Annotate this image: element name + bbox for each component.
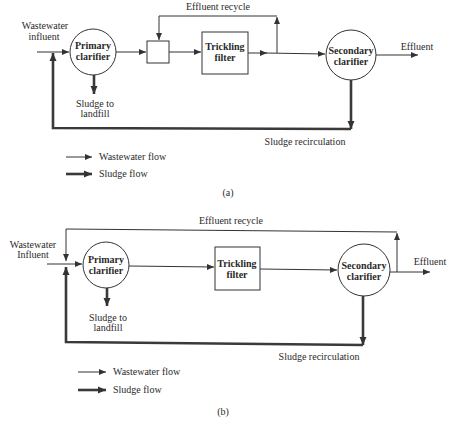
recycle-mixing-box [147,41,169,63]
trickling-filter-label-line2: filter [226,269,248,280]
panel-a: Wastewater influent Primary clarifier Tr… [22,1,434,199]
secondary-clarifier: Secondary clarifier [338,244,390,296]
legend-wastewater-flow-label: Wastewater flow [99,151,167,162]
caption-a: (a) [222,187,233,199]
influent-label-line2: influent [28,31,59,42]
effluent-recycle-label: Effluent recycle [186,1,251,12]
primary-clarifier: Primary clarifier [83,242,129,288]
effluent-recycle-label: Effluent recycle [199,215,264,226]
diagram-canvas: Wastewater influent Primary clarifier Tr… [0,0,457,430]
effluent-label: Effluent [414,256,447,267]
sludge-to-landfill-label-line2: landfill [81,108,110,119]
legend-sludge-flow-label: Sludge flow [113,384,162,395]
primary-clarifier-label-line2: clarifier [76,51,111,62]
legend-a: Wastewater flow Sludge flow [66,151,167,179]
trickling-filter-label-line2: filter [214,52,236,63]
sludge-to-landfill-label-line2: landfill [94,322,123,333]
influent-label-line2: Influent [17,249,49,260]
primary-clarifier-label-line2: clarifier [89,265,124,276]
trickling-filter: Trickling filter [215,247,260,290]
trickling-filter-process-diagrams: Wastewater influent Primary clarifier Tr… [0,0,457,430]
effluent-label: Effluent [401,41,434,52]
trickling-filter-label-line1: Trickling [217,258,256,269]
primary-clarifier-label-line1: Primary [88,254,124,265]
secondary-clarifier-label-line1: Secondary [329,45,374,56]
secondary-clarifier-label-line1: Secondary [342,260,387,271]
panel-b: Wastewater Influent Primary clarifier Tr… [10,215,447,418]
primary-clarifier-label-line1: Primary [75,40,111,51]
primary-clarifier: Primary clarifier [70,29,116,75]
legend-wastewater-flow-label: Wastewater flow [113,366,181,377]
trickling-to-secondary-arrow [266,53,325,54]
influent-label-line1: Wastewater [22,20,69,31]
trickling-to-secondary-arrow [260,269,337,270]
trickling-filter-label-line1: Trickling [205,41,244,52]
legend-sludge-flow-label: Sludge flow [99,168,148,179]
legend-b: Wastewater flow Sludge flow [78,366,181,395]
sludge-recirculation-label: Sludge recirculation [279,351,360,362]
caption-b: (b) [217,406,229,418]
trickling-filter: Trickling filter [202,32,248,74]
sludge-recirculation-label: Sludge recirculation [265,136,346,147]
secondary-clarifier-label-line2: clarifier [334,56,369,67]
primary-to-trickling-arrow [129,266,214,267]
secondary-clarifier: Secondary clarifier [326,30,376,80]
secondary-clarifier-label-line2: clarifier [347,271,382,282]
